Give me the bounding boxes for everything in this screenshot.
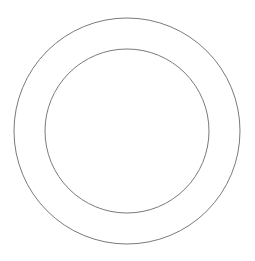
inner-circle <box>45 49 209 213</box>
outer-circle <box>14 18 240 244</box>
concentric-circles-diagram <box>0 0 255 261</box>
